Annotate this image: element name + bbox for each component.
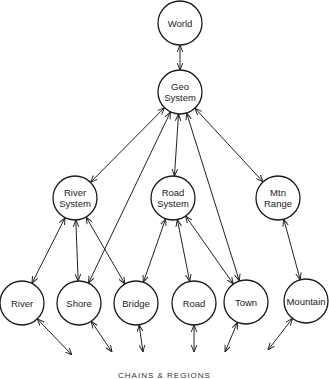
diagram-caption: CHAINS & REGIONS (0, 371, 329, 379)
node-label: Mountain (286, 296, 325, 307)
node-label: Range (264, 198, 292, 209)
node-world: World (158, 1, 202, 45)
node-shore: Shore (57, 281, 101, 325)
edge-river-out (37, 319, 72, 355)
node-label: World (168, 18, 193, 29)
node-label: System (59, 198, 91, 209)
edge-town-out (225, 322, 237, 352)
node-label: Geo (171, 81, 189, 92)
node-label: Mtn (270, 187, 286, 198)
node-label: Shore (66, 298, 91, 309)
edge-mtn-mountain (284, 219, 300, 280)
node-label: System (157, 198, 189, 209)
edge-roadsys-town (186, 216, 234, 284)
edge-riversys-river (32, 218, 65, 284)
edge-shore-out (91, 321, 112, 352)
edge-geo-roadsys (174, 114, 178, 176)
edge-roadsys-bridge (143, 219, 165, 283)
node-label: River (64, 187, 86, 198)
node-label: River (11, 298, 33, 309)
node-label: Road (162, 187, 185, 198)
edge-riversys-bridge (86, 217, 125, 284)
node-mountain: Mountain (284, 279, 328, 323)
node-town: Town (224, 280, 268, 324)
node-roadsys: RoadSystem (151, 176, 195, 220)
node-riversys: RiverSystem (53, 176, 97, 220)
node-label: Road (183, 298, 206, 309)
node-label: Bridge (122, 298, 149, 309)
node-geo: GeoSystem (158, 70, 202, 114)
nodes-layer: WorldGeoSystemRiverSystemRoadSystemMtnRa… (0, 1, 328, 325)
edge-geo-riversys (90, 108, 164, 183)
edge-roadsys-road (177, 220, 189, 282)
edge-riversys-shore (76, 220, 78, 281)
node-label: Town (235, 297, 257, 308)
node-mtn: MtnRange (256, 176, 300, 220)
node-river: River (0, 281, 44, 325)
edge-bridge-out (139, 325, 143, 352)
edge-mountain-out (268, 318, 293, 350)
node-bridge: Bridge (114, 281, 158, 325)
node-road: Road (172, 281, 216, 325)
node-label: System (164, 92, 196, 103)
diagram-canvas: WorldGeoSystemRiverSystemRoadSystemMtnRa… (0, 0, 329, 379)
